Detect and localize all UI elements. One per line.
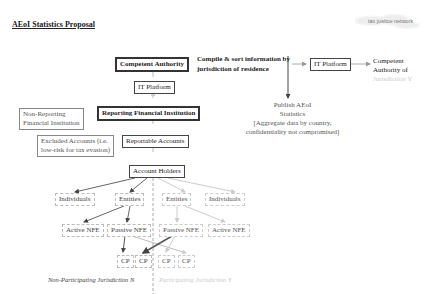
reporting-fi-box: Reporting Financial Institution xyxy=(97,106,200,121)
ca-y-line2: Authority of xyxy=(373,66,408,75)
non-reporting-line2: Financial Institution xyxy=(23,119,80,128)
participating-label: Participating Jurisdiction Y xyxy=(159,275,232,284)
individuals-n-box: Individuals xyxy=(55,193,95,206)
reportable-accounts-box: Reportable Accounts xyxy=(122,135,189,148)
excluded-accounts-box: Excluded Accounts (i.e. low-risk for tax… xyxy=(37,135,114,157)
entities-n-box: Entities xyxy=(115,193,144,206)
publish-line2: Statistics xyxy=(240,110,345,119)
entities-y-box: Entities xyxy=(162,193,191,206)
non-participating-label: Non-Participating Jurisdiction N xyxy=(48,275,134,284)
excluded-line1: Excluded Accounts (i.e. xyxy=(41,137,110,146)
publish-line1: Publish AEoI xyxy=(240,101,345,110)
passive-nfe-n-box: Passive NFE xyxy=(107,224,151,237)
ca-y-line1: Competent xyxy=(373,57,404,66)
compile-label-line1: Compile & sort information by xyxy=(197,55,290,64)
cp1-y-box: CP xyxy=(158,255,175,268)
ca-y-line3: Jurisdiction Y xyxy=(373,75,412,84)
non-reporting-fi-box: Non-Reporting Financial Institution xyxy=(19,108,84,130)
competent-authority-box: Competent Authority xyxy=(115,57,189,72)
individuals-y-box: Individuals xyxy=(205,193,245,206)
non-reporting-line1: Non-Reporting xyxy=(23,110,80,119)
active-nfe-n-box: Active NFE xyxy=(62,224,104,237)
publish-line3: [Aggregate data by country, xyxy=(230,119,355,128)
passive-nfe-y-box: Passive NFE xyxy=(159,224,203,237)
compile-label-line2: jurisdiction of residence xyxy=(197,65,269,74)
account-holders-box: Account Holders xyxy=(129,165,185,178)
cp1-n-box: CP xyxy=(117,255,134,268)
it-platform-box: IT Platform xyxy=(134,81,175,94)
excluded-line2: low-risk for tax evasion) xyxy=(41,146,110,155)
cp2-n-box: CP xyxy=(135,255,152,268)
active-nfe-y-box: Active NFE xyxy=(208,224,250,237)
it-platform-right-box: IT Platform xyxy=(310,58,351,71)
publish-line4: confidentiality not compromised] xyxy=(225,128,360,137)
cp2-y-box: CP xyxy=(178,255,195,268)
